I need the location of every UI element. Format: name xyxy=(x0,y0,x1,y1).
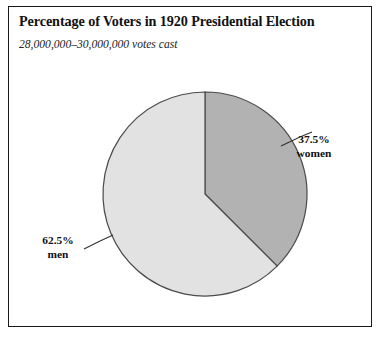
pie-label-women-percent: 37.5% xyxy=(297,133,332,147)
pie-label-women: 37.5% women xyxy=(297,133,332,161)
figure-root: Percentage of Voters in 1920 Presidentia… xyxy=(0,0,386,338)
pie-chart-graphic xyxy=(0,0,386,338)
pie-label-women-name: women xyxy=(297,147,332,161)
leader-line-men xyxy=(84,235,113,249)
pie-label-men-percent: 62.5% xyxy=(42,234,73,248)
pie-label-men-name: men xyxy=(42,248,73,262)
pie-label-men: 62.5% men xyxy=(42,234,73,262)
